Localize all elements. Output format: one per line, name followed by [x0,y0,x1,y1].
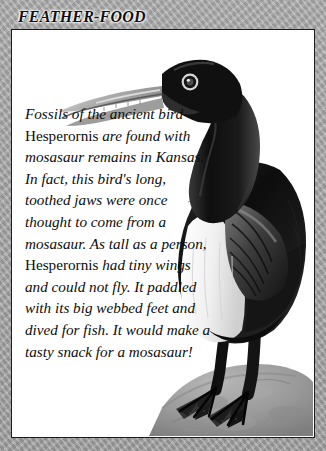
text-segment-2: are found with mosasaur remains in Kansa… [25,127,207,252]
text-segment-1: Fossils of the ancient bird [25,105,183,122]
page-title: FEATHER-FOOD [18,6,146,28]
genus-name-2: Hesperornis [25,256,98,273]
rock-illustration [149,364,313,436]
article-text: Fossils of the ancient bird Hesperornis … [25,103,211,362]
title-banner: FEATHER-FOOD [12,6,314,28]
content-frame: Fossils of the ancient bird Hesperornis … [11,29,315,438]
genus-name-1: Hesperornis [25,127,98,144]
